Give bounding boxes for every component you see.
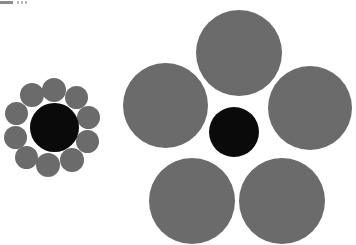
inducer-circle [123,63,208,148]
illusion-canvas [0,0,356,245]
large-inducers-cluster [0,0,356,245]
inducer-circle [196,10,282,96]
target-circle [209,107,259,157]
inducer-circle [149,158,235,244]
inducer-circle [268,66,352,150]
inducer-circle [239,158,325,244]
